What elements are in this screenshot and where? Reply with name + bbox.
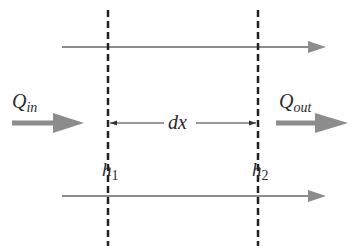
h2-label: h2 (252, 159, 269, 183)
inflow-arrow (12, 113, 84, 133)
dx-label: dx (168, 111, 187, 133)
q-out-label: Qout (279, 90, 312, 115)
top-flow-arrow (62, 41, 326, 53)
outflow-arrow (276, 113, 348, 133)
bottom-flow-arrow (62, 190, 326, 202)
h1-label: h1 (102, 159, 119, 183)
q-in-label: Qin (12, 90, 37, 115)
control-volume-diagram: Qin Qout dx h1 h2 (0, 0, 362, 248)
